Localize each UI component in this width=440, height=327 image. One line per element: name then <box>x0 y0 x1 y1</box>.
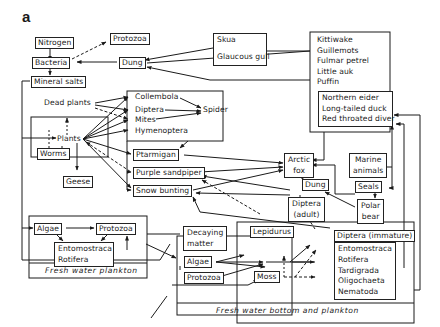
entomostraca-label: Entomostraca <box>58 244 110 255</box>
skua-gull-node: Skua Glaucous gull <box>213 33 267 66</box>
seabird-item: Guillemots <box>317 46 369 57</box>
seabird-item: Fulmar petrel <box>317 56 369 67</box>
glaucous-gull-label: Glaucous gull <box>217 52 263 63</box>
seabird-item: Puffin <box>317 77 369 88</box>
decaying-matter-node: Decaying matter <box>183 226 227 251</box>
polar-bear-label-2: bear <box>361 212 380 223</box>
seals-node: Seals <box>355 181 382 193</box>
dung-node-mid: Dung <box>302 179 329 191</box>
marine-animals-node: Marine animals <box>349 153 387 178</box>
moss-node: Moss <box>254 271 280 283</box>
rotifera-label: Rotifera <box>338 255 392 266</box>
plants-node: Plants <box>57 134 81 144</box>
skua-label: Skua <box>217 35 263 46</box>
diptera-immature-node: Diptera (immature) <box>334 230 415 242</box>
polar-bear-node: Polar bear <box>357 199 384 224</box>
duck-item: Long-tailed duck <box>322 104 389 115</box>
ducks-node: Northern eider Long-tailed duck Red thro… <box>318 91 393 127</box>
ptarmigan-node: Ptarmigan <box>133 149 179 161</box>
marine-animals-label-2: animals <box>353 166 383 177</box>
nematoda-label: Nematoda <box>338 287 392 298</box>
nitrogen-node: Nitrogen <box>35 37 74 49</box>
diptera-node: Diptera <box>135 105 164 115</box>
duck-item: Red throated diver <box>322 114 389 125</box>
rotifera-label: Rotifera <box>58 255 110 266</box>
fw-zooplankton-node: Entomostraca Rotifera <box>54 242 114 267</box>
bacteria-node: Bacteria <box>32 57 70 69</box>
arctic-fox-label-2: fox <box>288 166 310 177</box>
purple-sandpiper-node: Purple sandpiper <box>133 167 205 179</box>
seabird-item: Kittiwake <box>317 35 369 46</box>
marine-animals-label-1: Marine <box>353 155 383 166</box>
collembola-node: Collembola <box>135 92 178 102</box>
fresh-water-plankton-caption: Fresh water plankton <box>45 266 138 275</box>
diptera-adult-label-1: Diptera <box>292 199 321 210</box>
duck-item: Northern eider <box>322 93 389 104</box>
entomostraca-label: Entomostraca <box>338 244 392 255</box>
geese-node: Geese <box>63 176 93 188</box>
arctic-fox-label-1: Arctic <box>288 155 310 166</box>
snow-bunting-node: Snow bunting <box>133 185 192 197</box>
bottom-protozoa-node: Protozoa <box>184 272 224 284</box>
seabirds-list: Kittiwake Guillemots Fulmar petrel Littl… <box>317 35 369 88</box>
diptera-adult-label-2: (adult) <box>292 210 321 221</box>
oligochaeta-label: Oligochaeta <box>338 276 392 287</box>
fresh-water-bottom-caption: Fresh water bottom and plankton <box>216 306 359 315</box>
bottom-algae-node: Algae <box>184 256 212 268</box>
bottom-fauna-node: Entomostraca Rotifera Tardigrada Oligoch… <box>334 242 396 300</box>
tardigrada-label: Tardigrada <box>338 266 392 277</box>
protozoa-node: Protozoa <box>110 33 150 45</box>
seabird-item: Little auk <box>317 67 369 78</box>
decaying-label: Decaying <box>187 228 223 239</box>
dead-plants-node: Dead plants <box>44 98 91 108</box>
fw-algae-node: Algae <box>34 223 62 235</box>
polar-bear-label-1: Polar <box>361 201 380 212</box>
lepidurus-node: Lepidurus <box>250 226 294 238</box>
mineral-salts-node: Mineral salts <box>31 76 86 88</box>
arctic-fox-node: Arctic fox <box>284 153 314 178</box>
worms-node: Worms <box>37 148 70 160</box>
matter-label: matter <box>187 239 223 250</box>
diptera-adult-node: Diptera (adult) <box>288 197 325 222</box>
dung-node-top: Dung <box>119 57 146 69</box>
spider-node: Spider <box>203 105 228 115</box>
fw-protozoa-node: Protozoa <box>96 223 136 235</box>
mites-node: Mites <box>135 115 156 125</box>
hymenoptera-node: Hymenoptera <box>135 126 188 136</box>
